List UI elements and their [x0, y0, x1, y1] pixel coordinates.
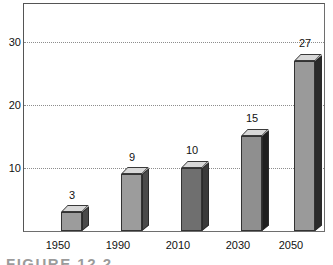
x-tick-label-2030: 2030 [214, 240, 262, 251]
gridline-20 [24, 105, 324, 106]
bar-side-1990 [142, 168, 149, 231]
bar-1950[interactable] [61, 212, 82, 231]
figure-caption: FIGURE 12.2 [6, 256, 306, 265]
bar-side-2050 [315, 55, 322, 231]
bar-front-2030 [241, 136, 262, 231]
y-tick-label-20: 20 [1, 100, 21, 111]
bar-side-2030 [262, 130, 269, 231]
x-tick-label-2010: 2010 [154, 240, 202, 251]
bar-1990[interactable] [121, 174, 142, 231]
figure-root: 3 9 10 15 27 30 2 [0, 0, 333, 265]
bar-front-2050 [294, 61, 315, 231]
y-tick-label-10: 10 [1, 163, 21, 174]
bar-2050[interactable] [294, 61, 315, 231]
bar-front-1950 [61, 212, 82, 231]
x-tick-label-2050: 2050 [267, 240, 315, 251]
bar-value-label-2030: 15 [232, 113, 272, 124]
bar-value-label-1990: 9 [112, 152, 152, 163]
plot-area: 3 9 10 15 27 [24, 4, 324, 231]
bar-value-label-2050: 27 [285, 38, 325, 49]
y-tick-label-30: 30 [1, 37, 21, 48]
bar-2030[interactable] [241, 136, 262, 231]
bar-value-label-2010: 10 [172, 145, 212, 156]
gridline-10 [24, 168, 324, 169]
x-tick-label-1990: 1990 [94, 240, 142, 251]
gridline-30 [24, 42, 324, 43]
bar-front-1990 [121, 174, 142, 231]
bar-side-2010 [202, 162, 209, 231]
x-tick-label-1950: 1950 [34, 240, 82, 251]
bar-2010[interactable] [181, 168, 202, 231]
bar-front-2010 [181, 168, 202, 231]
bar-value-label-1950: 3 [52, 190, 92, 201]
